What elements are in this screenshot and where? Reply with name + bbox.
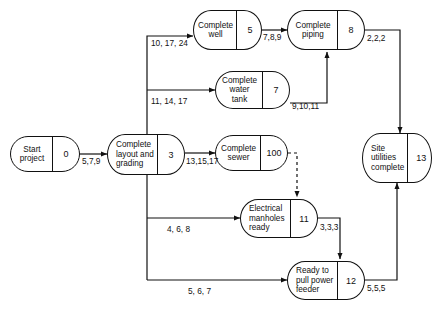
node-complete-piping-number: 8	[337, 11, 364, 49]
node-complete-well-number: 5	[236, 11, 263, 49]
node-complete-sewer[interactable]: Complete sewer 100	[215, 135, 288, 171]
node-start-project[interactable]: Start project 0	[10, 136, 80, 172]
edge-label-layout-to-well: 10, 17, 24	[151, 38, 188, 48]
node-site-utilities-label: Site utilities complete	[363, 134, 407, 182]
connector-piping-to-site	[365, 30, 400, 133]
node-electrical-manholes-number: 11	[290, 200, 317, 237]
edge-label-manholes-to-power-feeder: 3,3,3	[320, 222, 338, 232]
connector-sewer-to-manholes-dummy	[288, 153, 297, 197]
node-site-utilities[interactable]: Site utilities complete 13	[362, 133, 432, 183]
connector-water-tank-to-piping	[290, 52, 327, 103]
node-complete-water-tank-label: Complete water tank	[216, 72, 262, 108]
edge-label-layout-to-manholes: 4, 6, 8	[167, 224, 190, 234]
node-complete-piping[interactable]: Complete piping 8	[287, 10, 365, 50]
connector-power-feeder-to-site	[365, 183, 397, 280]
edge-label-water-tank-to-piping: 9,10,11	[292, 101, 319, 111]
edge-label-layout-to-sewer: 13,15,17	[186, 156, 218, 166]
node-complete-piping-label: Complete piping	[288, 11, 337, 49]
network-diagram-canvas: Start project 0 Complete layout and grad…	[0, 0, 439, 313]
edge-label-well-to-piping: 7,8,9	[263, 32, 281, 42]
node-complete-layout[interactable]: Complete layout and grading 3	[107, 134, 185, 175]
node-site-utilities-number: 13	[407, 134, 434, 182]
node-complete-well[interactable]: Complete well 5	[193, 10, 262, 50]
edge-label-start-to-layout: 5,7,9	[82, 156, 100, 166]
node-start-project-number: 0	[52, 137, 79, 171]
node-complete-layout-label: Complete layout and grading	[108, 135, 157, 174]
node-complete-water-tank[interactable]: Complete water tank 7	[215, 71, 290, 109]
node-complete-sewer-label: Complete sewer	[216, 136, 260, 170]
node-ready-pull-power-label: Ready to pull power feeder	[288, 262, 337, 299]
edge-label-layout-to-water-tank: 11, 14, 17	[151, 96, 187, 106]
node-complete-layout-number: 3	[157, 135, 184, 174]
edge-label-piping-to-site: 2,2,2	[367, 33, 385, 43]
node-complete-water-tank-number: 7	[262, 72, 289, 108]
node-complete-sewer-number: 100	[260, 136, 287, 170]
node-ready-pull-power[interactable]: Ready to pull power feeder 12	[287, 261, 365, 300]
node-electrical-manholes-label: Electrical manholes ready	[241, 200, 290, 237]
edge-label-layout-to-power-feeder: 5, 6, 7	[188, 286, 211, 296]
node-start-project-label: Start project	[11, 137, 52, 171]
edge-label-power-feeder-to-site: 5,5,5	[367, 283, 385, 293]
node-electrical-manholes[interactable]: Electrical manholes ready 11	[240, 199, 318, 238]
node-ready-pull-power-number: 12	[337, 262, 364, 299]
node-complete-well-label: Complete well	[194, 11, 236, 49]
